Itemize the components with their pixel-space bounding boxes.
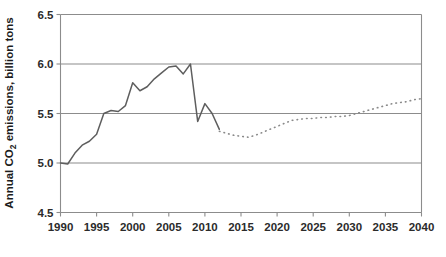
y-tick-label-4.5: 4.5 [38,207,55,219]
x-tick-label-2015: 2015 [228,221,254,233]
co2-emissions-line-chart: 6.56.05.55.04.5 199019952000200520102015… [0,0,446,257]
x-tick-label-2035: 2035 [373,221,399,233]
x-tick-label-2040: 2040 [409,221,435,233]
x-tick-label-2025: 2025 [300,221,326,233]
x-tick-label-1990: 1990 [48,221,74,233]
plot-background [0,0,446,257]
y-tick-label-6.5: 6.5 [38,9,55,21]
y-tick-label-5.5: 5.5 [38,108,55,120]
y-axis-title-main: Annual CO [3,149,15,208]
x-tick-label-2005: 2005 [156,221,182,233]
y-axis-title-rest: emissions, billion tons [3,17,15,144]
chart-container: 6.56.05.55.04.5 199019952000200520102015… [0,0,446,257]
x-tick-label-2010: 2010 [192,221,218,233]
x-tick-label-1995: 1995 [84,221,110,233]
y-tick-label-5.0: 5.0 [38,157,54,169]
x-tick-label-2000: 2000 [120,221,146,233]
y-tick-label-6.0: 6.0 [38,58,54,70]
x-tick-label-2020: 2020 [264,221,290,233]
x-tick-label-2030: 2030 [337,221,363,233]
